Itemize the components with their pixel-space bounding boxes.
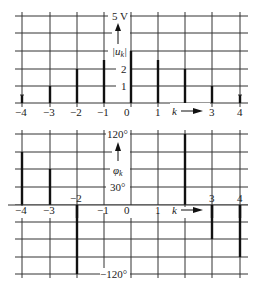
svg-text:1: 1 [155, 106, 161, 118]
phase-bottom-label: −120° [100, 268, 127, 280]
svg-text:−2: −2 [70, 106, 82, 118]
svg-text:4: 4 [237, 106, 243, 118]
svg-text:3: 3 [209, 106, 215, 118]
svg-text:−4: −4 [15, 106, 27, 118]
svg-text:3: 3 [209, 192, 215, 204]
amplitude-unit-label: 5 V [112, 10, 128, 22]
svg-text:4: 4 [237, 192, 243, 204]
svg-text:−3: −3 [43, 106, 55, 118]
svg-text:−2: −2 [70, 192, 82, 204]
phase-tick-30: 30° [110, 181, 125, 193]
svg-text:0: 0 [124, 106, 130, 118]
svg-text:1: 1 [155, 204, 161, 216]
svg-text:0: 0 [124, 204, 130, 216]
svg-text:−3: −3 [43, 204, 55, 216]
svg-text:−1: −1 [97, 106, 109, 118]
phase-top-label: 120° [107, 128, 128, 140]
amplitude-tick-1: 1 [121, 80, 127, 92]
phase-chart: 120° φk 30° −120° −4 −3 −2 −1 0 1 3 4 [8, 127, 248, 280]
amplitude-tick-2: 2 [121, 63, 127, 75]
amplitude-x-labels: −4 −3 −2 −1 0 1 3 4 [15, 106, 243, 118]
spectrum-figure: 5 V |uk| 2 1 −4 −3 −2 −1 0 1 3 4 k [0, 0, 260, 295]
svg-text:−4: −4 [15, 204, 27, 216]
amplitude-bars [20, 51, 242, 103]
amplitude-chart: 5 V |uk| 2 1 −4 −3 −2 −1 0 1 3 4 k [15, 9, 248, 118]
svg-text:−1: −1 [97, 204, 109, 216]
amplitude-axis-label: |uk| [112, 45, 127, 59]
